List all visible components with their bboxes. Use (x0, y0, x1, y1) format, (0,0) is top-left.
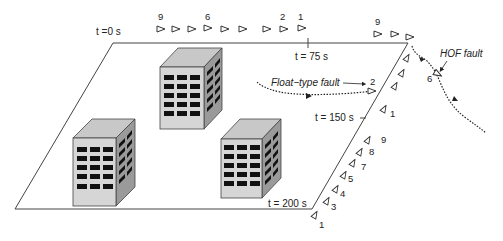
uav-label-r3: 3 (331, 201, 336, 212)
uav-label-r9: 9 (381, 134, 386, 145)
uav-label-r4: 4 (340, 188, 345, 199)
float-label-pointer (343, 83, 364, 84)
time-label-t200: t = 200 s (268, 198, 307, 209)
building-2 (73, 119, 135, 206)
float-fault-label: Float−type fault (271, 77, 341, 88)
float-fault-uav (368, 88, 376, 94)
uav-label-r1b: 1 (319, 219, 324, 230)
uav-label-corner-9: 9 (375, 16, 380, 27)
time-label-t75: t = 75 s (295, 51, 328, 62)
float-uav-label: 2 (370, 76, 375, 87)
uav-top-row (157, 25, 306, 32)
uav-label-9: 9 (158, 11, 163, 22)
uav-label-r7: 7 (361, 161, 366, 172)
hof-fault-label: HOF fault (440, 48, 484, 59)
uav-label-r1: 1 (390, 108, 395, 119)
hof-label-pointer (441, 61, 447, 70)
time-label-t150: t = 150 s (315, 112, 354, 123)
hof-arrowhead-2 (452, 96, 458, 101)
uav-label-6: 6 (205, 11, 210, 22)
time-label-t0: t =0 s (96, 26, 121, 37)
uav-label-1: 1 (298, 11, 303, 22)
uav-formation-diagram: 9 6 2 1 9 1 9 8 7 5 4 3 1 2 Float−type f… (0, 0, 503, 241)
uav-label-r8: 8 (369, 146, 374, 157)
diagram-canvas: 9 6 2 1 9 1 9 8 7 5 4 3 1 2 Float−type f… (0, 0, 503, 241)
uav-corner-group (374, 31, 414, 40)
uav-label-2: 2 (280, 11, 285, 22)
uav-label-r5: 5 (348, 173, 353, 184)
building-1 (160, 48, 222, 129)
hof-uav-label: 6 (427, 73, 432, 84)
building-3 (221, 119, 281, 198)
